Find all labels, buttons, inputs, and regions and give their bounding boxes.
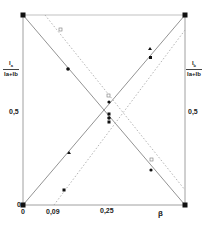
left-y-axis-label: Ia Ia+Ib: [3, 60, 19, 77]
square-marker: [108, 121, 111, 124]
x-tick-zero: 0: [21, 208, 25, 215]
circle-marker: [66, 67, 70, 71]
x-axis-label: β: [158, 210, 163, 218]
x-tick-025: 0,25: [100, 207, 114, 214]
point-marker: [21, 13, 26, 18]
circle-marker: [149, 168, 152, 171]
square-marker: [63, 189, 66, 192]
circle-marker: [107, 116, 111, 120]
y-tick-right-half: 0,5: [188, 108, 198, 115]
dotted-line-descending: [45, 15, 185, 190]
open-square-marker: [59, 28, 62, 31]
right-y-axis-label: Ib Ia+Ib: [186, 60, 202, 77]
x-tick-009: 0,09: [46, 208, 60, 215]
chart-canvas: [0, 0, 203, 226]
triangle-marker: [148, 47, 152, 50]
point-marker: [183, 203, 188, 208]
point-marker: [21, 203, 26, 208]
square-marker: [108, 113, 111, 116]
circle-marker: [107, 100, 110, 103]
y-tick-left-half: 0,5: [9, 108, 19, 115]
open-square-marker: [150, 158, 153, 161]
y-tick-zero: 0: [17, 201, 21, 208]
dotted-line-ascending: [54, 30, 185, 205]
point-marker: [183, 13, 188, 18]
square-marker: [149, 56, 152, 59]
open-square-marker: [107, 94, 110, 97]
